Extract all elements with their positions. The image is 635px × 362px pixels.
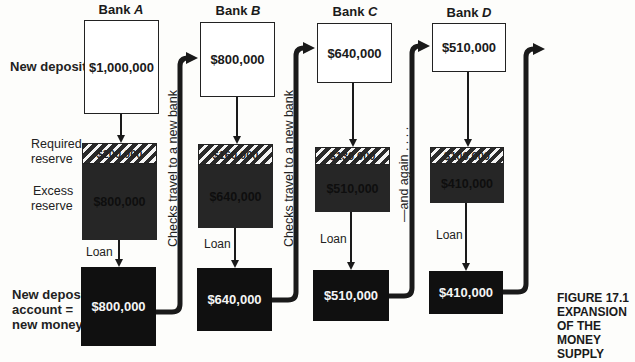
bank-d-loan-deposit: $410,000 bbox=[429, 271, 503, 314]
bank-a-title: Bank A bbox=[76, 2, 166, 17]
label-excess-reserve-line2: reserve bbox=[31, 199, 73, 214]
label-excess-reserve-line1: Excess bbox=[31, 184, 73, 199]
and-again-label: —and again . . . . bbox=[397, 127, 411, 222]
bank-c-loan-label: Loan bbox=[320, 232, 347, 246]
figure-caption-line: OF THE bbox=[557, 319, 629, 333]
figure-caption: FIGURE 17.1 EXPANSION OF THE MONEY SUPPL… bbox=[557, 291, 629, 361]
bank-a-loan-label: Loan bbox=[86, 245, 113, 259]
bank-b-new-deposit-box: $800,000 bbox=[200, 22, 275, 97]
bank-c-new-deposit-box: $640,000 bbox=[317, 23, 392, 83]
bank-b-required-reserve: $160,000 bbox=[198, 144, 273, 165]
figure-caption-number: FIGURE 17.1 bbox=[557, 291, 629, 305]
checks-travel-label-2: Checks travel to a new bank bbox=[282, 90, 296, 247]
label-required-reserve: Required reserve bbox=[31, 137, 82, 167]
figure-caption-line: SUPPLY bbox=[557, 347, 629, 361]
bank-b-excess-reserve: $640,000 bbox=[198, 165, 273, 228]
label-new-money: New deposit account = new money bbox=[12, 287, 89, 332]
label-new-money-line1: New deposit bbox=[12, 287, 89, 302]
bank-a-required-reserve: $200,000 bbox=[82, 143, 157, 164]
bank-b-loan-deposit: $640,000 bbox=[197, 268, 272, 331]
label-required-reserve-line1: Required bbox=[31, 137, 82, 152]
bank-d-new-deposit-box: $510,000 bbox=[432, 23, 506, 72]
label-new-deposits: New deposits bbox=[10, 59, 94, 74]
bank-a-excess-reserve: $800,000 bbox=[82, 164, 157, 240]
checks-travel-label-1: Checks travel to a new bank bbox=[166, 90, 180, 247]
bank-b-loan-label: Loan bbox=[204, 237, 231, 251]
figure-caption-line: EXPANSION bbox=[557, 305, 629, 319]
label-new-money-line3: new money bbox=[12, 317, 89, 332]
bank-d-required-reserve: $100,000 bbox=[430, 147, 504, 164]
bank-d-excess-reserve: $410,000 bbox=[430, 164, 504, 203]
bank-c-loan-deposit: $510,000 bbox=[313, 270, 389, 321]
label-required-reserve-line2: reserve bbox=[31, 152, 82, 167]
bank-d-loan-label: Loan bbox=[436, 228, 463, 242]
bank-b-title: Bank B bbox=[193, 3, 283, 18]
bank-c-required-reserve: $130,000 bbox=[315, 147, 390, 165]
label-excess-reserve: Excess reserve bbox=[31, 184, 73, 214]
bank-a-loan-deposit: $800,000 bbox=[81, 267, 156, 346]
bank-a-new-deposit-box: $1,000,000 bbox=[84, 20, 159, 114]
bank-d-title: Bank D bbox=[424, 5, 514, 20]
bank-c-excess-reserve: $510,000 bbox=[315, 165, 390, 212]
bank-c-title: Bank C bbox=[310, 4, 400, 19]
label-new-money-line2: account = bbox=[12, 302, 89, 317]
figure-caption-line: MONEY bbox=[557, 333, 629, 347]
